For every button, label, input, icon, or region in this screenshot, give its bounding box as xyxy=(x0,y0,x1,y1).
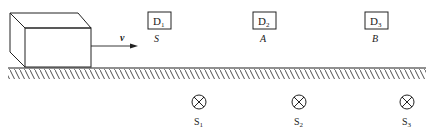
position-label-s: S xyxy=(154,33,159,44)
detector-d1: D1 S xyxy=(148,12,171,44)
detector-d3: D3 B xyxy=(365,12,388,44)
velocity-arrow: v xyxy=(91,32,138,49)
svg-text:S2: S2 xyxy=(294,116,304,129)
source-s1: S1 xyxy=(192,95,206,129)
position-label-b: B xyxy=(372,33,378,44)
svg-text:S3: S3 xyxy=(402,116,412,129)
velocity-label: v xyxy=(120,32,125,43)
block xyxy=(10,13,91,67)
source-s2: S2 xyxy=(292,95,306,129)
ground xyxy=(8,68,426,79)
svg-text:D1: D1 xyxy=(153,15,165,29)
svg-text:D3: D3 xyxy=(370,15,382,29)
position-label-a: A xyxy=(259,33,267,44)
source-s3: S3 xyxy=(400,95,414,129)
svg-text:D2: D2 xyxy=(258,15,270,29)
svg-text:S1: S1 xyxy=(194,116,204,129)
detector-d2: D2 A xyxy=(253,12,276,44)
diagram-canvas: v D1 S D2 A D3 B S1 S2 S3 xyxy=(0,0,432,134)
